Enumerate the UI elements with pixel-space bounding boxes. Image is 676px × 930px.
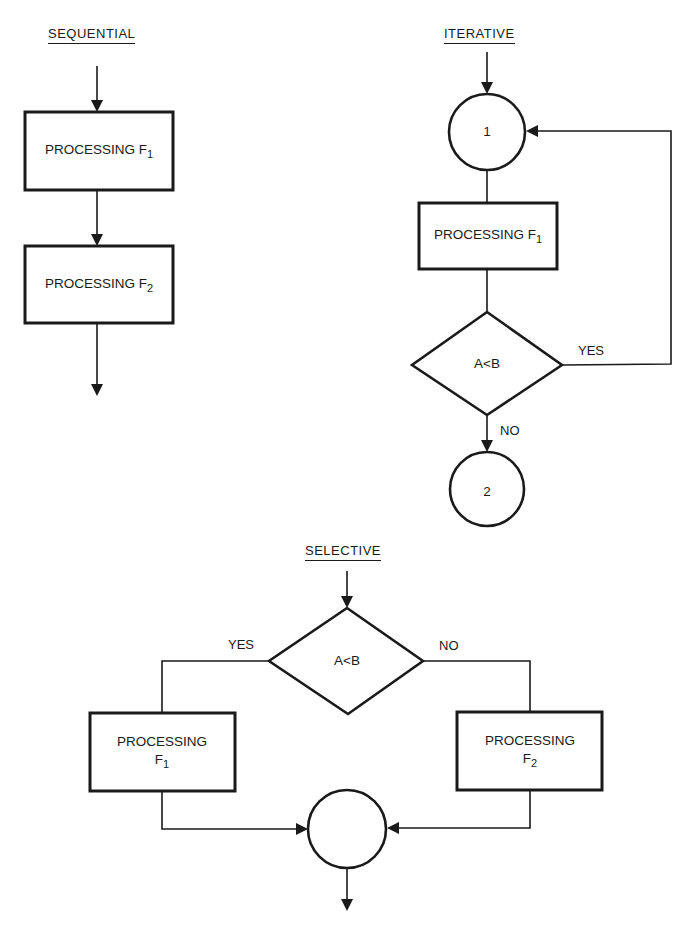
it-yes-label: YES bbox=[578, 343, 604, 358]
sequential-flow bbox=[25, 66, 173, 394]
it-process-f1-label: PROCESSING F1 bbox=[434, 226, 542, 246]
flowchart-canvas bbox=[0, 0, 676, 930]
title-iterative: ITERATIVE bbox=[444, 26, 515, 44]
sel-yes-label: YES bbox=[228, 637, 254, 652]
sel-f2-to-join-arrow bbox=[389, 791, 530, 828]
sel-f1-to-join-arrow bbox=[162, 792, 306, 829]
sel-process-f2-label: PROCESSING F2 bbox=[485, 732, 575, 770]
seq-process-f2-label: PROCESSING F2 bbox=[45, 275, 153, 295]
it-loop-back-arrow bbox=[528, 131, 671, 365]
it-no-label: NO bbox=[500, 423, 520, 438]
it-decision-label: A<B bbox=[474, 355, 500, 373]
sel-no-label: NO bbox=[439, 638, 459, 653]
it-connector-1-label: 1 bbox=[483, 123, 491, 141]
sel-join-connector bbox=[308, 790, 386, 868]
title-selective: SELECTIVE bbox=[305, 543, 381, 561]
seq-process-f1-label: PROCESSING F1 bbox=[45, 141, 153, 161]
sel-decision-label: A<B bbox=[334, 652, 360, 670]
it-connector-2-label: 2 bbox=[483, 483, 491, 501]
title-sequential: SEQUENTIAL bbox=[48, 26, 135, 44]
sel-process-f1-label: PROCESSING F1 bbox=[117, 733, 207, 771]
iterative-flow bbox=[412, 52, 671, 526]
sel-yes-line bbox=[162, 661, 269, 713]
sel-no-line bbox=[423, 661, 530, 712]
